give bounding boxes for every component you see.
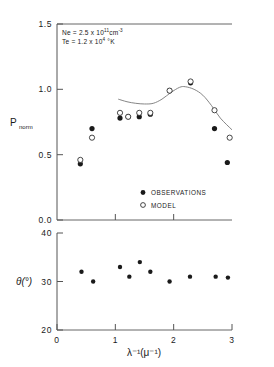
figure-caption xyxy=(0,354,274,367)
data-point-observation xyxy=(213,274,217,278)
data-point-observation xyxy=(188,274,192,278)
data-point-observation xyxy=(91,279,95,283)
lower-ytick-label-0: 20 xyxy=(41,325,52,335)
data-point-observation xyxy=(127,274,131,278)
upper-ytick-label-1: 0.5 xyxy=(38,150,52,160)
x-tick-label: 0 xyxy=(54,335,59,345)
x-tick-label: 2 xyxy=(171,335,176,345)
upper-data-points xyxy=(78,79,233,167)
legend-label-model: MODEL xyxy=(151,202,176,209)
chart-svg: 1.5 1.0 0.5 0.0 P norm Ne = 2.5 x 1011cm… xyxy=(0,0,274,367)
data-point-observation xyxy=(89,126,94,131)
lower-y-axis-label: θ(°) xyxy=(16,276,32,287)
chart-legend: OBSERVATIONS MODEL xyxy=(141,189,207,209)
upper-y-axis-label-main: P xyxy=(10,117,17,128)
upper-y-axis-label: P norm xyxy=(10,117,33,130)
chart-canvas: 1.5 1.0 0.5 0.0 P norm Ne = 2.5 x 1011cm… xyxy=(0,0,274,367)
annotation-line-1: Ne = 2.5 x 1011cm-3 xyxy=(62,28,123,36)
x-tick-label: 1 xyxy=(113,335,118,345)
legend-marker-model xyxy=(141,203,146,208)
annotation-1-suffix: cm xyxy=(109,29,118,36)
data-point-model xyxy=(89,135,94,140)
lower-y-ticks xyxy=(57,233,63,330)
lower-x-ticks xyxy=(57,324,232,330)
upper-y-axis-label-sub: norm xyxy=(19,124,33,130)
data-point-observation xyxy=(148,270,152,274)
data-point-model xyxy=(167,88,172,93)
data-point-observation xyxy=(167,279,171,283)
x-tick-label: 3 xyxy=(229,335,234,345)
data-point-model xyxy=(227,135,232,140)
legend-marker-observations xyxy=(141,190,146,195)
data-point-observation xyxy=(118,265,122,269)
data-point-model xyxy=(78,157,83,162)
data-point-model xyxy=(137,110,142,115)
data-point-observation xyxy=(117,115,122,120)
lower-data-points xyxy=(79,260,230,284)
plasma-parameters-annotation: Ne = 2.5 x 1011cm-3 Te = 1.2 x 104 °K xyxy=(62,28,123,44)
annotation-2-prefix: Te = 1.2 x 10 xyxy=(62,38,103,45)
data-point-observation xyxy=(226,275,230,279)
data-point-observation xyxy=(225,160,230,165)
annotation-1-suffix-exponent: -3 xyxy=(118,28,123,33)
lower-ytick-label-1: 30 xyxy=(41,277,52,287)
upper-ytick-label-3: 1.5 xyxy=(38,19,52,29)
data-point-model xyxy=(126,114,131,119)
upper-ytick-label-0: 0.0 xyxy=(38,215,52,225)
data-point-observation xyxy=(212,126,217,131)
annotation-line-2: Te = 1.2 x 104 °K xyxy=(62,37,115,45)
data-point-model xyxy=(212,108,217,113)
annotation-1-prefix: Ne = 2.5 x 10 xyxy=(62,29,104,36)
data-point-observation xyxy=(138,260,142,264)
upper-x-ticks xyxy=(115,214,173,220)
data-point-model xyxy=(117,110,122,115)
legend-label-observations: OBSERVATIONS xyxy=(151,189,206,196)
upper-y-ticks xyxy=(57,24,63,220)
figure-container: 1.5 1.0 0.5 0.0 P norm Ne = 2.5 x 1011cm… xyxy=(0,0,274,367)
annotation-2-suffix: °K xyxy=(105,38,115,45)
lower-ytick-label-2: 40 xyxy=(41,228,52,238)
upper-ytick-label-2: 1.0 xyxy=(38,84,52,94)
data-point-model xyxy=(148,110,153,115)
data-point-observation xyxy=(79,270,83,274)
data-point-model xyxy=(188,79,193,84)
x-tick-labels: 0123 xyxy=(54,335,234,345)
lower-panel-axes xyxy=(57,233,232,330)
